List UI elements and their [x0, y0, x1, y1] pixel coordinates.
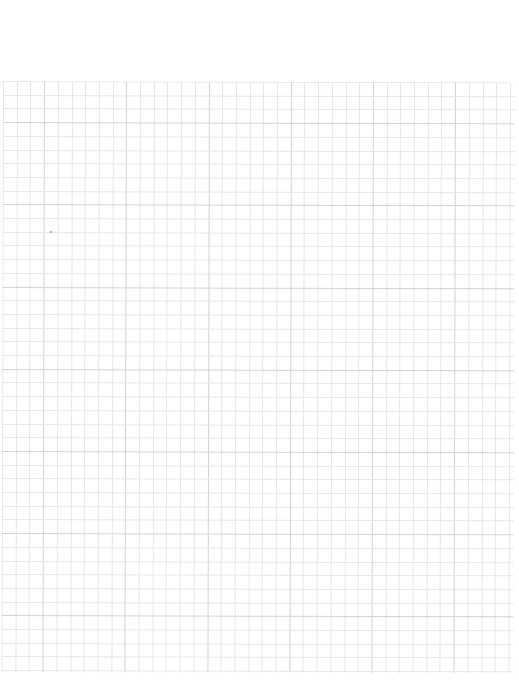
grid: [1, 81, 515, 673]
pencil-speck: [50, 231, 52, 233]
grid-lines: [1, 81, 515, 673]
graph-paper-sheet: [0, 0, 519, 692]
